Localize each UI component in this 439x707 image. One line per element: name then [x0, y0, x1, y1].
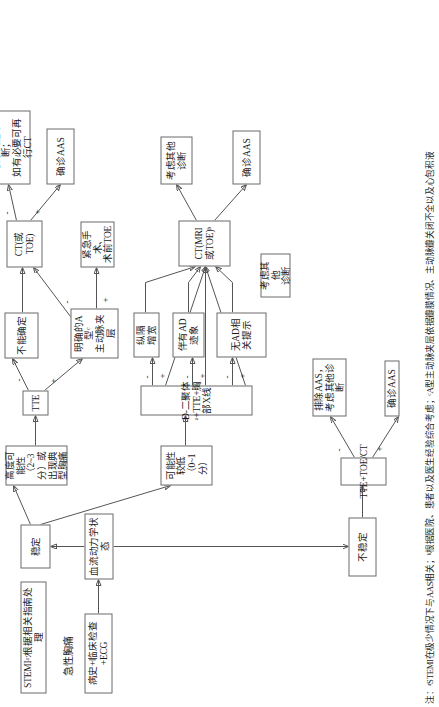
figure-footnote: 注：ᵃSTEMI在极少情况下与AAS相关；ᵇ根据医院、患者以及医生经验综合考虑；…: [424, 151, 434, 703]
figure-title: 急性胸痛: [62, 635, 74, 675]
node-indeterminate: 不能确定: [4, 312, 38, 358]
node-no-ad-indication: 无AD相关提示: [216, 312, 266, 357]
node-consider-other-dx-low: 考虑其他 诊断: [260, 253, 290, 297]
node-ct-toe-positive: 确诊AAS: [46, 128, 74, 184]
node-stemi: STEMIᵃ:根据相关指南处理: [20, 581, 46, 693]
edge-sign-dimer-minus-1: -: [142, 375, 151, 378]
edge-sign-dimer-minus-2: -: [182, 375, 191, 378]
edge-sign-dimer-plus-2: +: [197, 373, 206, 378]
edge-sign-tte-minus: -: [14, 378, 23, 381]
edge-sign-dimer-minus-3: -: [222, 375, 231, 378]
node-ct-toe-negative: 考虑其他诊断； 如有必要可再行CT: [0, 110, 30, 184]
node-emergency-surgery: 紧急手术、 术前TOE: [80, 221, 114, 267]
edge-sign-typea-minus: -: [62, 300, 71, 303]
edge-sign-dimer-plus-3: +: [237, 373, 246, 378]
node-intake: 病史+临床检查+ECG: [84, 613, 112, 693]
node-stable: 稳定: [20, 524, 50, 568]
node-ct-mri-negative: 考虑其他 诊断: [160, 136, 192, 184]
node-ct-mri-positive: 确诊AAS: [232, 130, 260, 184]
node-tte-toe-ct: TTE+TOE/CT: [340, 457, 386, 485]
edge-sign-unstable-minus: -: [334, 448, 343, 451]
edge-sign-typea-plus: +: [100, 297, 109, 302]
edge-sign-cttoe-plus: +: [32, 209, 41, 214]
edge-sign-unstable-plus: +: [374, 446, 383, 451]
node-ad-signs: 伴有AD 迹象: [172, 312, 204, 357]
edge-sign-dimer-plus-1: +: [157, 373, 166, 378]
node-ct-mri-toe: CT(MRI或TOE)ᵇ: [178, 220, 230, 266]
node-tte: TTE: [22, 390, 48, 415]
node-hemodynamics: 血流动力学状态: [84, 513, 113, 579]
node-unstable: 不稳定: [348, 517, 376, 576]
node-dimer-tte-cxr: D-二聚体ᵃ+TTE+胸部X线: [140, 385, 252, 415]
node-low-probability: 可能性较低（0~1分）: [160, 445, 212, 485]
figure-rotation-wrapper: 急性胸痛 病史+临床检查+ECG STEMIᵃ:根据相关指南处理 血流动力学状态…: [0, 0, 439, 707]
node-type-a-dissection: 明确的A型ᶜ 主动脉夹层: [70, 308, 118, 358]
node-mediastinum-widening: 纵隔 增宽: [133, 312, 159, 357]
node-exclude-aas: 排除AAS， 考虑其他诊断: [312, 358, 346, 416]
node-high-probability: 高度可能性（2~3分）或 出现典型胸痛: [5, 445, 67, 485]
flowchart-canvas: 急性胸痛 病史+临床检查+ECG STEMIᵃ:根据相关指南处理 血流动力学状态…: [0, 0, 439, 707]
node-confirm-aas-unstable: 确诊AAS: [384, 360, 399, 416]
edge-sign-tte-plus: +: [48, 378, 57, 383]
edge-sign-cttoe-minus: -: [2, 211, 11, 214]
node-ct-or-toe: CT(或TOE): [6, 220, 42, 267]
